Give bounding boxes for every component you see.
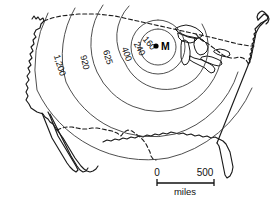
contour-label-400: 400 — [120, 45, 134, 62]
contour-label-920: 920 — [78, 54, 91, 71]
gulf-of-california-inner — [50, 114, 88, 172]
great-lakes-group — [176, 25, 230, 73]
scale-bar-unit-label: miles — [174, 186, 196, 197]
scale-bar-start-label: 0 — [154, 167, 160, 178]
mexico-border-dashed — [57, 127, 156, 160]
baja-peninsula-outline — [42, 112, 78, 172]
gulf-coast-outline — [103, 132, 233, 178]
source-site-dot-icon — [153, 43, 158, 48]
new-england-coast — [248, 14, 268, 64]
contour-map-figure: 1,200 920 625 400 240 160 M 0 500 miles — [0, 0, 280, 202]
contour-label-625: 625 — [101, 49, 115, 66]
scale-bar-end-label: 500 — [197, 167, 214, 178]
lake-michigan-outline — [181, 40, 190, 65]
mexico-west-coast — [57, 130, 98, 172]
scale-bar-group: 0 500 miles — [154, 167, 214, 197]
source-site-label: M — [161, 40, 170, 52]
map-canvas: 1,200 920 625 400 240 160 M 0 500 miles — [0, 0, 280, 202]
east-coast-outline — [217, 20, 266, 143]
contour-label-1200: 1,200 — [52, 53, 68, 77]
lake-connector-detail — [190, 56, 215, 73]
great-lakes-border-dashed — [196, 34, 248, 63]
